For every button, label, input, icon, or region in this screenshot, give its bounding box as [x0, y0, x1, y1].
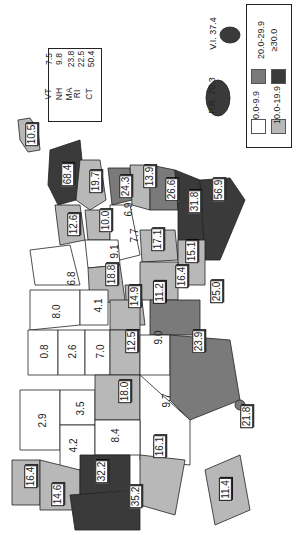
label-co: 18.0: [118, 380, 131, 403]
label-ny: 68.4: [61, 163, 74, 186]
label-il: 9.1: [109, 245, 120, 259]
legend-swatch-3: [271, 69, 286, 84]
label-mt: 2.9: [37, 414, 48, 428]
label-nv: 32.2: [95, 460, 108, 483]
label-ne: 7.0: [95, 345, 106, 359]
label-hi: 21.8: [240, 405, 253, 428]
label-sd: 2.6: [67, 345, 78, 359]
label-wa: 16.4: [24, 465, 37, 488]
label-oh: 24.3: [119, 175, 132, 198]
legend-swatch-0: [251, 119, 266, 134]
label-ms: 11.2: [153, 281, 166, 304]
label-in: 10.0: [99, 209, 112, 232]
label-ak: 11.4: [219, 478, 232, 501]
label-fl: 56.9: [212, 178, 225, 201]
label-pa: 19.7: [89, 170, 102, 193]
label-or: 14.6: [51, 483, 64, 506]
label-ut: 8.4: [110, 429, 121, 443]
label-id: 4.2: [68, 439, 79, 453]
label-nc: 31.8: [188, 190, 201, 213]
label-ar: 14.9: [128, 285, 141, 308]
map-legend: 0.0-9.9 10.0-19.9 20.0-29.9 ≥30.0: [246, 4, 292, 148]
label-al: 16.4: [175, 265, 188, 288]
northeast-values-box: VT NH MA RI CT 7.5 9.8 23.8 22.5 50.4: [48, 48, 102, 122]
label-wy: 3.5: [75, 402, 86, 416]
label-ia: 4.1: [93, 299, 104, 313]
us-choropleth-map: VT NH MA RI CT 7.5 9.8 23.8 22.5 50.4 P.…: [0, 0, 303, 535]
vi-label: V.I. 37.4: [208, 17, 219, 50]
label-mn: 8.0: [51, 305, 62, 319]
label-ky: 6.9: [123, 203, 134, 217]
territory-vi: [220, 27, 240, 43]
label-mo: 18.8: [105, 263, 118, 286]
state-az: [140, 455, 185, 515]
legend-swatch-2: [251, 69, 266, 84]
label-nm: 9.7: [161, 394, 172, 408]
label-ok: 9.0: [153, 331, 164, 345]
label-wv: 13.9: [143, 165, 156, 188]
label-tx: 23.9: [192, 330, 205, 353]
label-tn: 7.7: [129, 229, 140, 243]
label-sc: 17.1: [151, 228, 164, 251]
label-nd: 0.8: [39, 345, 50, 359]
label-az: 16.1: [153, 435, 166, 458]
label-ga: 15.1: [185, 240, 198, 263]
label-mi: 12.6: [67, 213, 80, 236]
label-me: 10.5: [25, 123, 38, 146]
label-ca: 35.2: [129, 485, 142, 508]
label-ks: 12.5: [125, 330, 138, 353]
label-va: 26.6: [165, 178, 178, 201]
pr-label: P.R. 70.3: [207, 77, 218, 113]
label-wi: 6.8: [66, 272, 77, 286]
label-la: 25.0: [210, 280, 223, 303]
